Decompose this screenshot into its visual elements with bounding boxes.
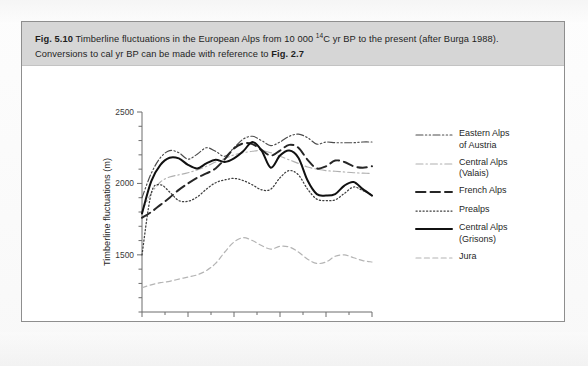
caption-line1-part-a: Timberline fluctuations in the European … <box>73 34 316 44</box>
legend-swatch-long-dash <box>415 186 453 198</box>
legend-label-line1: Central Alps <box>459 157 508 169</box>
legend-label-line1: Jura <box>459 251 477 263</box>
series-line-jura <box>142 238 372 288</box>
legend-label-line1: Central Alps <box>459 222 508 234</box>
legend-swatch-dotted <box>415 205 453 217</box>
y-axis-title: Timberline fluctuations (m) <box>102 158 112 266</box>
x-axis-tick-label: 10 <box>137 320 147 322</box>
legend-item-french-alps[interactable]: French Alps <box>415 185 560 198</box>
plot-region: 2500200015001086420Age (10³ years)Timber… <box>22 66 564 322</box>
legend-label: Central Alps(Valais) <box>459 157 508 180</box>
y-axis-tick-label: 2500 <box>115 107 134 117</box>
scan-artifact-bottom <box>0 332 588 366</box>
legend-label-line2: (Valais) <box>459 168 508 180</box>
legend-label: French Alps <box>459 185 507 197</box>
legend-label: Central Alps(Grisons) <box>459 222 508 245</box>
x-axis-tick-label: 6 <box>232 320 237 322</box>
figure-box: Fig. 5.10 Timberline fluctuations in the… <box>21 21 565 322</box>
caption-line1-part-b: C yr BP to the present (after Burga 1988… <box>323 34 498 44</box>
legend-swatch-dash-dot-dot <box>415 129 453 141</box>
series-line-french-alps <box>142 143 372 218</box>
caption-line2-part-a: Conversions to cal yr BP can be made wit… <box>35 49 271 59</box>
chart-legend: Eastern Alpsof AustriaCentral Alps(Valai… <box>415 128 560 270</box>
figure-caption-text: Fig. 5.10 Timberline fluctuations in the… <box>35 29 552 61</box>
legend-swatch-dash-dot <box>415 158 453 170</box>
legend-label: Jura <box>459 251 477 263</box>
series-line-prealps <box>142 170 372 254</box>
series-line-central-alps-grisons <box>142 142 372 213</box>
axis-labels-group: 2500200015001086420Age (10³ years)Timber… <box>102 107 375 322</box>
caption-figure-reference: Fig. 2.7 <box>271 49 304 59</box>
legend-swatch-dashed <box>415 252 453 264</box>
legend-item-eastern-alps-of-austria[interactable]: Eastern Alpsof Austria <box>415 128 560 151</box>
legend-label-line1: Eastern Alps <box>459 128 510 140</box>
x-axis-tick-label: 0 <box>370 320 375 322</box>
legend-label: Eastern Alpsof Austria <box>459 128 510 151</box>
figure-caption-band: Fig. 5.10 Timberline fluctuations in the… <box>22 22 564 66</box>
legend-item-central-alps-valais[interactable]: Central Alps(Valais) <box>415 157 560 180</box>
x-axis-tick-label: 4 <box>278 320 283 322</box>
series-group <box>142 134 372 288</box>
page-canvas: Fig. 5.10 Timberline fluctuations in the… <box>0 0 588 366</box>
legend-item-jura[interactable]: Jura <box>415 251 560 264</box>
legend-label-line1: French Alps <box>459 185 507 197</box>
legend-label-line2: of Austria <box>459 140 510 152</box>
legend-label: Prealps <box>459 204 490 216</box>
y-axis-tick-label: 1500 <box>115 250 134 260</box>
scan-artifact-top <box>0 0 588 22</box>
caption-figure-number: Fig. 5.10 <box>35 34 73 44</box>
legend-item-prealps[interactable]: Prealps <box>415 204 560 217</box>
y-axis-tick-label: 2000 <box>115 178 134 188</box>
legend-label-line1: Prealps <box>459 204 490 216</box>
legend-swatch-solid <box>415 223 453 235</box>
x-axis-tick-label: 8 <box>186 320 191 322</box>
x-axis-tick-label: 2 <box>324 320 329 322</box>
legend-item-central-alps-grisons[interactable]: Central Alps(Grisons) <box>415 222 560 245</box>
legend-label-line2: (Grisons) <box>459 234 508 246</box>
